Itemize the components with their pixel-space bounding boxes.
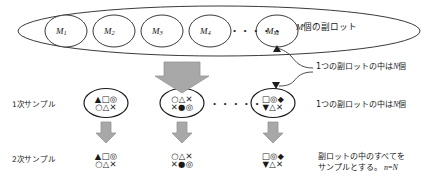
secondary-sample-symbols-1: ▲□◎ ○△✕ bbox=[88, 152, 124, 168]
symbol-row-bottom: ○△✕ bbox=[88, 160, 124, 168]
sublot-label-4: M4 bbox=[200, 26, 211, 36]
symbol-row-bottom: ✕●◎ bbox=[164, 160, 200, 168]
diagram-canvas: M1 M2 M3 M4 MM • • • • • M個の副ロット 1次サンプル … bbox=[0, 0, 438, 188]
row-label-primary-sample: 1次サンプル bbox=[12, 100, 56, 109]
annotation-all-sampled: 副ロットの中のすべてを サンプルとする。 n=N bbox=[318, 152, 405, 174]
sublot-label-3: M3 bbox=[152, 26, 163, 36]
ellipsis-top: • • • • • bbox=[233, 26, 281, 36]
leader-line-to-primary-sample bbox=[279, 72, 313, 86]
secondary-sample-symbols-3: □◎◆ ▼△✕ bbox=[255, 152, 291, 168]
annotation-sublot-n-bottom: 1つの副ロットの中はN個 bbox=[316, 100, 406, 110]
symbol-row-bottom: ▼△✕ bbox=[255, 160, 291, 168]
row-label-secondary-sample: 2次サンプル bbox=[12, 155, 56, 164]
primary-sample-symbols-2: ○△✕ ✕●◎ bbox=[164, 95, 200, 111]
block-arrow-primary-to-secondary-3 bbox=[263, 122, 283, 143]
block-arrow-primary-to-secondary-2 bbox=[172, 122, 192, 143]
symbol-row-bottom: ✕●◎ bbox=[164, 103, 200, 111]
lot-caption: M個の副ロット bbox=[296, 22, 357, 33]
block-arrow-lot-to-primary bbox=[155, 62, 209, 93]
annotation-sublot-n-top: 1つの副ロットの中はN個 bbox=[316, 62, 406, 72]
leader-line-to-sublot-m bbox=[277, 48, 313, 68]
secondary-sample-symbols-2: ○△✕ ✕●◎ bbox=[164, 152, 200, 168]
symbol-row-bottom: ○△✕ bbox=[88, 103, 124, 111]
sublot-label-1: M1 bbox=[56, 26, 67, 36]
ellipsis-middle: • • • • • bbox=[213, 99, 261, 109]
primary-sample-symbols-1: ▲□◎ ○△✕ bbox=[88, 95, 124, 111]
sublot-label-2: M2 bbox=[104, 26, 115, 36]
block-arrow-primary-to-secondary-1 bbox=[96, 122, 116, 143]
